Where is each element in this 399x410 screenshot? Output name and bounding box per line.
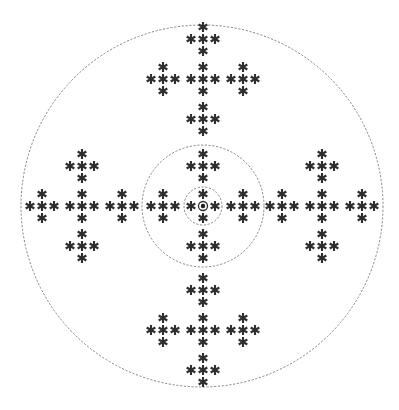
asterisk-icon — [159, 313, 168, 323]
asterisk-icon — [227, 74, 236, 84]
asterisk-icon — [78, 149, 87, 159]
asterisk-icon — [66, 161, 75, 171]
sub-plus — [187, 273, 220, 307]
asterisk-icon — [78, 213, 87, 223]
asterisk-icon — [211, 74, 220, 84]
asterisk-icon — [278, 213, 287, 223]
sub-plus — [147, 62, 180, 96]
asterisk-icon — [199, 297, 208, 307]
asterisk-icon — [211, 241, 220, 251]
asterisk-icon — [211, 161, 220, 171]
bullseye-icon — [199, 202, 208, 211]
sub-plus — [66, 189, 99, 223]
asterisk-icon — [78, 173, 87, 183]
asterisk-icon — [130, 201, 139, 211]
asterisk-icon — [318, 253, 327, 263]
asterisk-icon — [199, 62, 208, 72]
asterisk-icon — [187, 285, 196, 295]
asterisk-icon — [38, 213, 47, 223]
asterisk-icon — [66, 241, 75, 251]
asterisk-icon — [358, 201, 367, 211]
asterisk-icon — [306, 161, 315, 171]
asterisk-icon — [78, 161, 87, 171]
asterisk-icon — [38, 189, 47, 199]
asterisk-icon — [90, 201, 99, 211]
asterisk-icon — [318, 241, 327, 251]
asterisk-icon — [318, 229, 327, 239]
asterisk-icon — [78, 253, 87, 263]
asterisk-icon — [239, 62, 248, 72]
asterisk-icon — [211, 285, 220, 295]
sub-plus — [346, 189, 379, 223]
asterisk-icon — [199, 46, 208, 56]
asterisk-icon — [227, 325, 236, 335]
asterisk-icon — [199, 102, 208, 112]
asterisk-icon — [199, 114, 208, 124]
asterisk-icon — [199, 325, 208, 335]
asterisk-icon — [239, 213, 248, 223]
asterisk-icon — [278, 201, 287, 211]
asterisk-icon — [66, 201, 75, 211]
sub-plus — [227, 313, 260, 347]
asterisk-icon — [318, 173, 327, 183]
asterisk-icon — [227, 201, 236, 211]
asterisk-icon — [290, 201, 299, 211]
asterisk-icon — [199, 149, 208, 159]
asterisk-icon — [199, 161, 208, 171]
asterisk-icon — [239, 313, 248, 323]
asterisk-icon — [211, 34, 220, 44]
asterisk-icon — [187, 241, 196, 251]
asterisk-icon — [199, 189, 208, 199]
asterisk-icon — [211, 365, 220, 375]
asterisk-icon — [199, 229, 208, 239]
asterisk-icon — [199, 241, 208, 251]
asterisk-icon — [239, 86, 248, 96]
asterisk-icon — [171, 325, 180, 335]
asterisk-icon — [159, 62, 168, 72]
cluster-right — [266, 149, 379, 263]
asterisk-icon — [147, 201, 156, 211]
asterisk-icon — [330, 201, 339, 211]
asterisk-icon — [199, 34, 208, 44]
sub-plus — [266, 189, 299, 223]
sub-plus — [306, 149, 339, 183]
asterisk-icon — [187, 365, 196, 375]
asterisk-icon — [199, 213, 208, 223]
sub-plus — [147, 313, 180, 347]
cluster-top — [147, 22, 260, 136]
sub-plus — [66, 229, 99, 263]
asterisk-icon — [171, 74, 180, 84]
asterisk-icon — [330, 161, 339, 171]
asterisk-icon — [187, 74, 196, 84]
sub-plus — [66, 149, 99, 183]
asterisk-icon — [318, 213, 327, 223]
asterisk-icon — [50, 201, 59, 211]
sub-plus — [187, 22, 220, 56]
asterisk-icon — [159, 201, 168, 211]
asterisk-icon — [187, 161, 196, 171]
asterisk-icon — [239, 325, 248, 335]
asterisk-icon — [358, 213, 367, 223]
asterisk-icon — [199, 22, 208, 32]
sub-plus — [187, 313, 220, 347]
asterisk-icon — [187, 325, 196, 335]
sub-plus — [227, 62, 260, 96]
asterisk-icon — [78, 189, 87, 199]
asterisk-icon — [278, 189, 287, 199]
asterisk-icon — [187, 201, 196, 211]
asterisk-icon — [251, 74, 260, 84]
asterisk-icon — [199, 377, 208, 387]
asterisk-icon — [239, 337, 248, 347]
concentric-asterisk-diagram — [0, 0, 399, 410]
sub-plus — [187, 353, 220, 387]
sub-plus — [187, 102, 220, 136]
asterisk-icon — [118, 201, 127, 211]
asterisk-icon — [211, 201, 220, 211]
sub-plus — [187, 149, 220, 183]
sub-plus — [306, 189, 339, 223]
asterisk-icon — [346, 201, 355, 211]
cluster-center — [147, 149, 260, 263]
asterisk-icon — [199, 353, 208, 363]
asterisk-icon — [78, 229, 87, 239]
asterisk-icon — [159, 86, 168, 96]
